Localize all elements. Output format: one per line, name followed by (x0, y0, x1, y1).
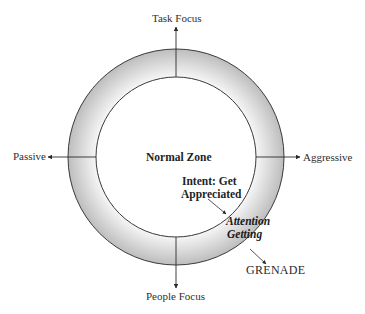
axis-label-aggressive: Aggressive (303, 151, 353, 163)
attention-getting-label-line1: Attention (226, 215, 270, 228)
axis-label-task-focus: Task Focus (152, 12, 202, 24)
grenade-label: GRENADE (246, 263, 305, 278)
normal-zone-label: Normal Zone (146, 151, 211, 164)
intent-label-line2: Appreciated (181, 188, 241, 201)
axis-label-passive: Passive (13, 150, 46, 162)
axis-label-people-focus: People Focus (146, 290, 205, 302)
grenade-pointer-arrow (250, 249, 266, 264)
intent-label-line1: Intent: Get (182, 175, 237, 188)
attention-getting-label-line2: Getting (227, 228, 262, 241)
